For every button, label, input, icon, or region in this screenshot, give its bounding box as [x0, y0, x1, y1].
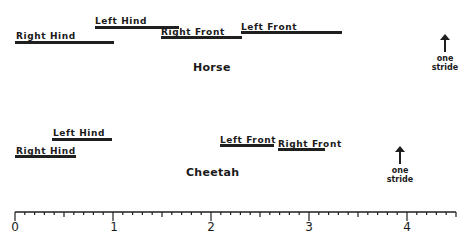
axis-tick-label-4: 4: [397, 220, 417, 234]
time-axis: [0, 0, 475, 243]
axis-tick-label-0: 0: [5, 220, 25, 234]
axis-tick-label-2: 2: [201, 220, 221, 234]
axis-tick-label-1: 1: [104, 220, 124, 234]
axis-tick-label-3: 3: [299, 220, 319, 234]
